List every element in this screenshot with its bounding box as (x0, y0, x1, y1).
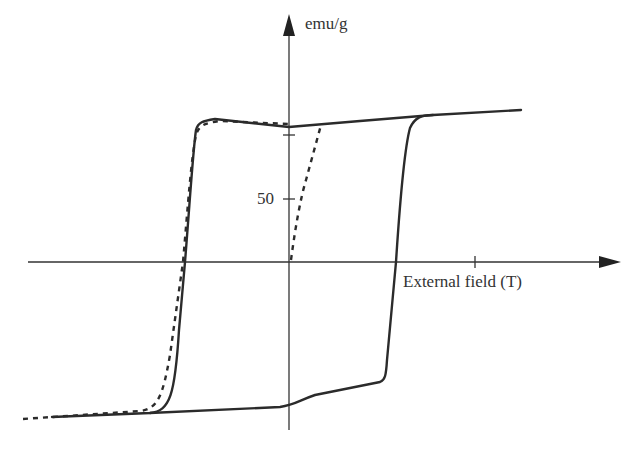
y-axis-label: emu/g (305, 14, 348, 34)
hysteresis-chart (0, 0, 641, 450)
x-axis-label: External field (T) (403, 272, 522, 292)
dashed-descending-branch (23, 121, 289, 419)
x-axis-arrowhead (599, 256, 621, 268)
y-tick-label-50: 50 (257, 189, 274, 209)
initial-magnetization-curve (291, 125, 321, 260)
loop-descending-branch (52, 110, 521, 417)
y-axis-arrowhead (283, 14, 295, 36)
